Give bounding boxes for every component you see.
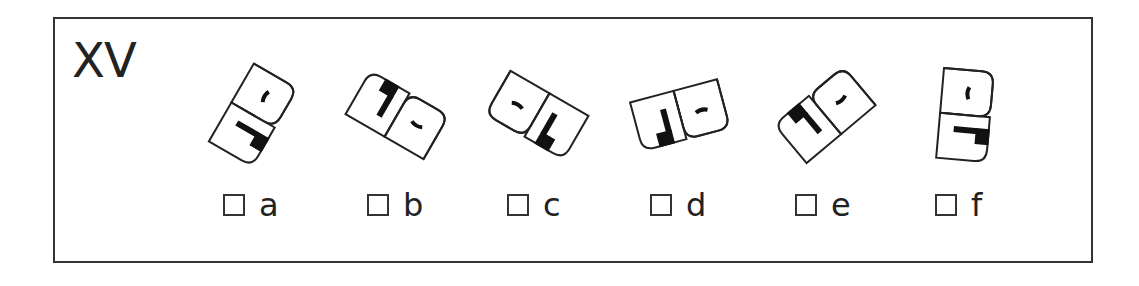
checkbox-a[interactable] — [223, 194, 245, 216]
figure-option-e — [770, 55, 880, 175]
option-f[interactable]: f — [935, 187, 982, 223]
figure-option-a — [198, 55, 308, 175]
question-number: XV — [72, 36, 136, 84]
checkbox-c[interactable] — [507, 194, 529, 216]
option-a[interactable]: a — [223, 187, 279, 223]
figure-option-b — [342, 55, 452, 175]
checkbox-f[interactable] — [935, 194, 957, 216]
figure-option-c — [482, 55, 592, 175]
option-label-e: e — [831, 189, 851, 221]
option-label-b: b — [403, 189, 423, 221]
option-c[interactable]: c — [507, 187, 561, 223]
option-label-d: d — [686, 189, 706, 221]
option-label-f: f — [971, 189, 982, 221]
option-b[interactable]: b — [367, 187, 423, 223]
checkbox-e[interactable] — [795, 194, 817, 216]
figure-option-f — [910, 55, 1020, 175]
option-d[interactable]: d — [650, 187, 706, 223]
figure-option-d — [625, 55, 735, 175]
option-e[interactable]: e — [795, 187, 851, 223]
checkbox-b[interactable] — [367, 194, 389, 216]
option-label-c: c — [543, 189, 561, 221]
option-label-a: a — [259, 189, 279, 221]
checkbox-d[interactable] — [650, 194, 672, 216]
